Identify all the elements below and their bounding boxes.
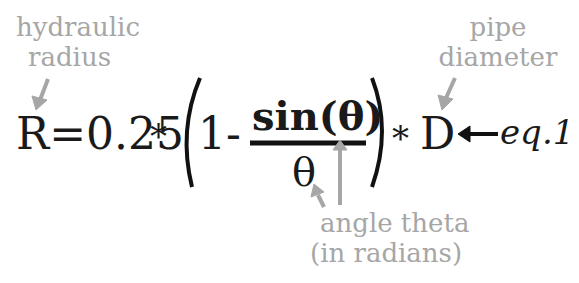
variable-r: R [16, 108, 49, 159]
denominator: θ [292, 152, 316, 192]
hydraulic-radius-label: hydraulic radius [16, 12, 140, 72]
label-line: pipe [418, 12, 578, 42]
one-minus: 1- [198, 112, 241, 156]
multiply-sign-2: * [392, 118, 409, 158]
equation-label: eq.1 [500, 112, 574, 152]
coefficient: 0.25 [86, 108, 184, 159]
numerator: sin(θ) [252, 96, 383, 136]
angle-theta-label: angle theta (in radians) [310, 208, 469, 268]
equals-sign: = [49, 108, 86, 159]
label-line: radius [16, 42, 140, 72]
variable-d: D [420, 112, 455, 156]
pipe-diameter-label: pipe diameter [418, 12, 578, 72]
label-line: diameter [418, 42, 578, 72]
pipe-diameter-arrow-icon [438, 78, 455, 110]
angle-theta-up-arrow-icon [333, 140, 347, 205]
label-line: (in radians) [310, 238, 469, 268]
hydraulic-radius-arrow-icon [32, 79, 48, 110]
multiply-sign-1: * [150, 116, 167, 156]
label-line: angle theta [310, 208, 469, 238]
label-line: hydraulic [16, 12, 140, 42]
eq-label-arrow-icon [458, 126, 498, 142]
